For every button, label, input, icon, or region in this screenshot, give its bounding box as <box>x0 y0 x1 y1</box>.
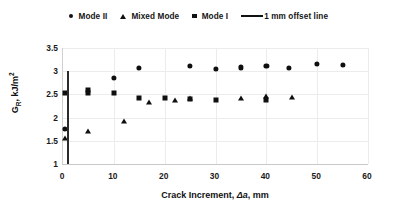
data-point <box>121 118 127 123</box>
plot-area <box>62 48 368 165</box>
y-axis-title-rest: , kJ/m <box>10 76 20 102</box>
legend-label: 1 mm offset line <box>264 12 328 21</box>
legend-label: Mixed Mode <box>131 12 179 21</box>
data-point <box>137 95 142 100</box>
x-tick-label: 0 <box>60 171 65 181</box>
y-axis-title-sub: R <box>15 102 22 107</box>
data-point <box>111 76 116 81</box>
legend-entry-1[interactable]: Mixed Mode <box>120 12 179 21</box>
data-point <box>188 96 193 101</box>
y-tick-label: 3.5 <box>46 43 58 53</box>
y-tick-label: 3 <box>53 66 58 76</box>
data-point <box>264 63 269 68</box>
data-point <box>162 95 167 100</box>
y-axis-title-sup: 2 <box>8 72 15 76</box>
data-point <box>315 62 320 67</box>
x-axis-tick-labels: 0102030405060 <box>62 171 368 185</box>
data-point <box>264 97 269 102</box>
y-tick-label: 2 <box>53 113 58 123</box>
data-point <box>238 65 243 70</box>
data-point <box>213 97 218 102</box>
x-tick-label: 40 <box>261 171 270 181</box>
x-tick-label: 30 <box>210 171 219 181</box>
x-tick-label: 10 <box>108 171 117 181</box>
data-point <box>146 100 152 105</box>
data-point <box>287 65 292 70</box>
triangle-marker-icon <box>120 14 126 19</box>
y-tick-label: 2.5 <box>46 89 58 99</box>
square-marker-icon <box>192 14 196 18</box>
gridline-vertical <box>165 48 166 164</box>
data-point <box>111 91 116 96</box>
x-axis-title-prefix: Crack Increment, <box>161 190 237 200</box>
gridline-vertical <box>368 48 369 164</box>
y-axis-title-main: G <box>10 106 20 113</box>
x-axis-title: Crack Increment, Δa, mm <box>62 190 368 200</box>
y-tick-label: 1 <box>53 159 58 169</box>
gridline-vertical <box>114 48 115 164</box>
data-point <box>172 97 178 102</box>
x-tick-label: 60 <box>362 171 371 181</box>
x-axis-title-symbol: Δa <box>237 190 248 200</box>
y-axis-title: GR, kJ/m2 <box>8 45 22 141</box>
data-point <box>340 63 345 68</box>
circle-marker-icon <box>69 14 74 19</box>
legend-label: Mode I <box>202 12 229 21</box>
chart-container: Mode IIMixed ModeMode I1 mm offset line … <box>0 0 397 216</box>
legend-label: Mode II <box>78 12 107 21</box>
data-point <box>238 96 244 101</box>
legend-entry-0[interactable]: Mode II <box>69 12 108 21</box>
legend-entry-2[interactable]: Mode I <box>192 12 228 21</box>
offset-line <box>67 71 69 164</box>
x-axis-title-suffix: , mm <box>248 190 269 200</box>
data-point <box>86 91 91 96</box>
data-point <box>137 65 142 70</box>
y-axis-tick-labels: 11.522.533.5 <box>28 48 58 165</box>
x-tick-label: 20 <box>159 171 168 181</box>
data-point <box>187 63 192 68</box>
chart-legend: Mode IIMixed ModeMode I1 mm offset line <box>0 6 397 26</box>
data-point <box>289 95 295 100</box>
line-marker-icon <box>241 15 263 17</box>
y-tick-label: 1.5 <box>46 136 58 146</box>
legend-entry-3[interactable]: 1 mm offset line <box>241 12 328 21</box>
x-tick-label: 50 <box>311 171 320 181</box>
data-point <box>85 128 91 133</box>
